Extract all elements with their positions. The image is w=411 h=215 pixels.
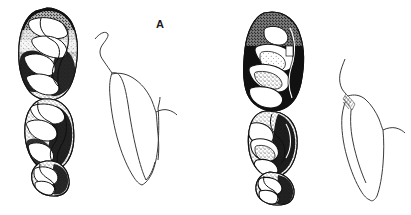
panel-b: B — [206, 0, 411, 215]
figure-root: A B — [0, 0, 411, 215]
panel-a: A — [0, 0, 206, 215]
panel-label-a: A — [156, 19, 164, 30]
